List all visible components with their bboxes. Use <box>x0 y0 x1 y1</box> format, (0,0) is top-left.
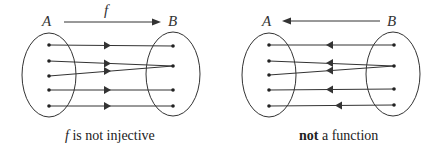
arrowheads <box>326 41 342 110</box>
codomain-points <box>392 43 396 107</box>
arrowheads <box>104 42 111 111</box>
caption-not: not <box>299 128 319 143</box>
caption-not-function: not a function <box>299 128 378 143</box>
mapping-edges <box>269 45 394 106</box>
codomain-points <box>171 44 175 108</box>
map-arrow-left <box>282 18 380 25</box>
caption-rest: a function <box>318 128 378 143</box>
function-diagrams: A f B <box>0 0 441 148</box>
set-b-label: B <box>168 13 177 29</box>
set-b-label: B <box>387 13 396 29</box>
domain-points <box>267 43 271 108</box>
set-a-label: A <box>261 13 272 29</box>
mapping-edges <box>49 45 173 106</box>
panel-not-function: A B <box>242 13 420 143</box>
caption-rest: is not injective <box>69 128 155 143</box>
set-a-label: A <box>41 13 52 29</box>
caption-not-injective: f is not injective <box>65 128 155 143</box>
panel-not-injective: A f B <box>22 2 200 143</box>
domain-points <box>47 43 51 108</box>
map-label: f <box>104 2 110 18</box>
map-arrow-right <box>64 19 161 26</box>
